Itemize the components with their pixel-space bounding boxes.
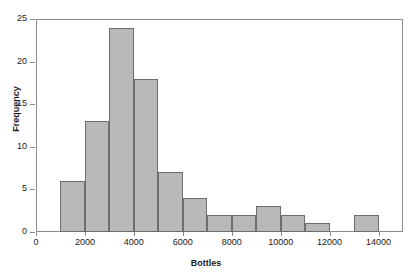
histogram-bar <box>60 181 84 232</box>
x-tick-label: 10000 <box>261 237 301 247</box>
x-tick-line <box>85 232 86 236</box>
y-tick-line <box>30 232 35 233</box>
histogram-bar <box>85 121 109 232</box>
bars-layer <box>36 19 403 232</box>
x-tick-label: 0 <box>16 237 56 247</box>
histogram-bar <box>109 28 133 232</box>
x-tick-label: 14000 <box>359 237 399 247</box>
x-tick-line <box>183 232 184 236</box>
histogram-bar <box>305 223 329 232</box>
x-tick-label: 4000 <box>114 237 154 247</box>
x-tick-line <box>379 232 380 236</box>
x-tick-line <box>36 232 37 236</box>
histogram-bar <box>232 215 256 232</box>
y-tick-label: 20 <box>0 56 27 66</box>
x-tick-label: 12000 <box>310 237 350 247</box>
x-tick-line <box>281 232 282 236</box>
x-tick-label: 2000 <box>65 237 105 247</box>
x-tick-line <box>134 232 135 236</box>
histogram-bar <box>158 172 182 232</box>
y-tick-line <box>30 19 35 20</box>
y-tick-line <box>30 147 35 148</box>
y-tick-label: 15 <box>0 98 27 108</box>
histogram-bar <box>281 215 305 232</box>
y-tick-line <box>30 189 35 190</box>
x-tick-label: 8000 <box>212 237 252 247</box>
histogram-bar <box>183 198 207 232</box>
x-tick-line <box>232 232 233 236</box>
x-tick-label: 6000 <box>163 237 203 247</box>
histogram-bar <box>207 215 231 232</box>
x-axis-title: Bottles <box>36 258 376 268</box>
y-tick-label: 5 <box>0 183 27 193</box>
y-tick-label: 10 <box>0 141 27 151</box>
y-tick-line <box>30 62 35 63</box>
histogram-chart: Frequency 0510152025 0200040006000800010… <box>0 0 412 277</box>
y-tick-label: 25 <box>0 13 27 23</box>
x-tick-line <box>330 232 331 236</box>
y-tick-line <box>30 104 35 105</box>
histogram-bar <box>256 206 280 232</box>
histogram-bar <box>354 215 378 232</box>
y-tick-label: 0 <box>0 226 27 236</box>
histogram-bar <box>134 79 158 232</box>
